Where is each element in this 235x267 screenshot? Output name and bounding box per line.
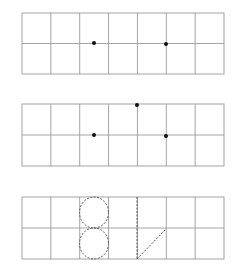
dashed-diagonal-stroke	[137, 229, 166, 259]
point-dot	[164, 134, 168, 138]
figure-eight-top-loop	[80, 197, 109, 228]
dot-grid-1	[22, 13, 224, 74]
point-dot	[92, 41, 96, 45]
point-dot	[164, 42, 168, 46]
point-dot	[135, 103, 139, 107]
point-dot	[92, 133, 96, 137]
worksheet-canvas	[0, 0, 235, 267]
dot-grid-2	[22, 103, 224, 166]
figure-eight-bottom-loop	[80, 228, 109, 259]
tracing-grid-3	[22, 197, 224, 259]
